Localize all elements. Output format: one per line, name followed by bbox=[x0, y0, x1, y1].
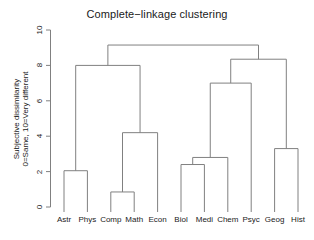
dendrogram-plot bbox=[0, 0, 314, 240]
dendrogram-link-m10 bbox=[108, 45, 259, 65]
dendrogram-link-m5 bbox=[275, 149, 298, 207]
leaf-label-biol: Biol bbox=[174, 215, 187, 224]
dendrogram-link-m6 bbox=[123, 133, 158, 207]
leaf-label-chem: Chem bbox=[217, 215, 238, 224]
y-tick-label: 2 bbox=[35, 169, 44, 173]
leaf-label-psyc: Psyc bbox=[243, 215, 260, 224]
leaf-label-astr: Astr bbox=[57, 215, 71, 224]
leaf-label-medi: Medi bbox=[196, 215, 213, 224]
y-tick-label: 0 bbox=[35, 205, 44, 209]
leaf-label-phys: Phys bbox=[78, 215, 96, 224]
dendrogram-link-m8 bbox=[76, 65, 140, 170]
dendrogram-link-m9 bbox=[231, 59, 287, 148]
dendrogram-links bbox=[64, 45, 298, 207]
y-tick-label: 10 bbox=[35, 26, 44, 35]
x-axis-ticks bbox=[64, 207, 298, 212]
leaf-label-hist: Hist bbox=[291, 215, 305, 224]
dendrogram-link-m1 bbox=[111, 192, 134, 207]
dendrogram-link-m3 bbox=[181, 165, 204, 207]
y-tick-label: 4 bbox=[35, 134, 44, 138]
leaf-label-comp: Comp bbox=[100, 215, 121, 224]
y-tick-label: 8 bbox=[35, 63, 44, 67]
leaf-label-math: Math bbox=[125, 215, 143, 224]
leaf-label-econ: Econ bbox=[148, 215, 166, 224]
dendrogram-link-m2 bbox=[64, 171, 87, 207]
y-axis-ticks bbox=[46, 30, 51, 207]
leaf-label-geog: Geog bbox=[265, 215, 285, 224]
dendrogram-figure: Complete−linkage clustering Subjective d… bbox=[0, 0, 314, 240]
y-tick-label: 6 bbox=[35, 99, 44, 103]
dendrogram-link-m7 bbox=[210, 83, 251, 207]
